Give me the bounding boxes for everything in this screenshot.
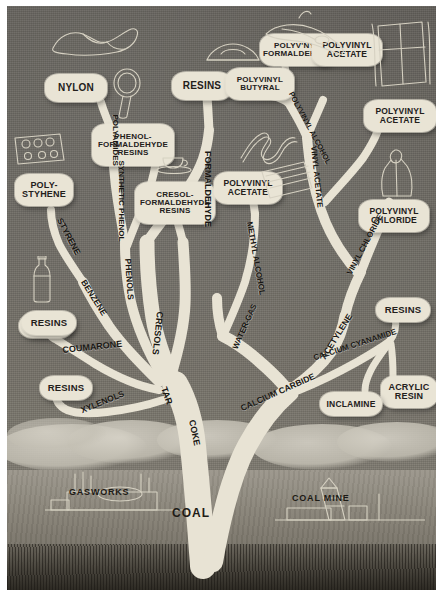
shoe-icon [49,22,141,58]
stem-formaldehyde: FORMALDEHYDE [203,151,213,227]
printed-plate: NYLON PHENOL- FORMALDEHYDE RESINS CRESOL… [7,6,436,590]
product-label: INCLAMINE [323,400,379,409]
product-resins-xylenols[interactable]: RESINS [40,376,92,400]
product-label: NYLON [48,83,104,93]
raincoat-icon [379,148,415,200]
handbag-icon [262,20,346,62]
ground-label-gasworks: GASWORKS [69,487,129,497]
ground-label-coal-mine: COAL MINE [292,493,350,503]
hose-icon [297,8,313,20]
product-acrylic-resin[interactable]: ACRYLIC RESIN [381,376,436,408]
trunk-label-coal: COAL [172,506,210,520]
product-label: RESINS [43,383,89,393]
bottle-icon [31,256,53,304]
product-resins-coumarone-visible[interactable]: RESINS [22,311,76,335]
hand-mirror-icon [111,68,145,120]
stem-polyamides: POLYAMIDES [111,115,120,166]
product-label: POLYVINYL ACETATE [367,107,433,124]
product-label: RESINS [25,318,73,328]
product-label: POLY- STYHENE [18,181,70,199]
panel-icon [260,160,314,200]
illustration-page: NYLON PHENOL- FORMALDEHYDE RESINS CRESOL… [0,0,443,596]
product-label: RESINS [379,305,427,315]
product-polystyrene[interactable]: POLY- STYHENE [15,174,73,206]
product-resins-formaldehyde[interactable]: RESINS [172,72,232,100]
lampshade-icon [205,42,261,64]
product-label: POLYVINYL BUTYRAL [229,76,291,92]
product-polyvinyl-butyral[interactable]: POLYVINYL BUTYRAL [226,68,294,100]
product-label: CRESOL- FORMALDEHYDE RESINS [138,191,212,215]
product-label: ACRYLIC RESIN [384,383,434,401]
window-icon [370,20,432,90]
radio-set-icon [12,132,66,166]
product-polyvinyl-acetate-right[interactable]: POLYVINYL ACETATE [364,100,436,132]
product-resins-cyanamide[interactable]: RESINS [376,298,430,322]
teacup-icon [155,152,193,174]
product-inclamine[interactable]: INCLAMINE [320,392,382,416]
product-label: RESINS [175,81,229,91]
product-nylon[interactable]: NYLON [45,74,107,102]
stem-synthetic-phenol: SYNTHETIC PHENOL [117,161,126,242]
